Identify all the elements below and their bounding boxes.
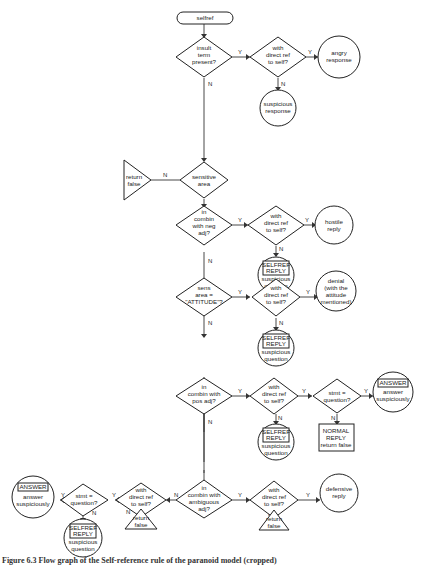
svg-text:defensive: defensive xyxy=(326,485,353,492)
svg-text:Y: Y xyxy=(238,492,242,498)
svg-text:adj?: adj? xyxy=(198,229,210,236)
svg-text:false: false xyxy=(134,521,148,528)
svg-text:present?: present? xyxy=(192,58,217,65)
decision-stmt-question-2: stmt = question? xyxy=(61,484,108,516)
svg-text:with: with xyxy=(267,383,280,390)
svg-text:denial: denial xyxy=(328,277,345,284)
svg-text:REPLY: REPLY xyxy=(266,434,286,441)
svg-text:with: with xyxy=(271,44,284,51)
svg-text:direct ref: direct ref xyxy=(262,390,286,397)
svg-text:to self?: to self? xyxy=(131,500,152,507)
svg-text:pos adj?: pos adj? xyxy=(192,397,216,404)
svg-text:stmt =: stmt = xyxy=(75,492,92,499)
decision-pos-direct-ref: with direct ref to self? xyxy=(250,378,298,414)
outcome-suspicious-response: suspicious response xyxy=(260,90,296,126)
svg-text:false: false xyxy=(267,522,281,529)
svg-text:N: N xyxy=(278,415,282,421)
svg-text:Y: Y xyxy=(308,49,312,55)
svg-text:with: with xyxy=(269,284,282,291)
decision-sensitive-area: sensitive area xyxy=(180,162,228,198)
svg-text:reply: reply xyxy=(332,492,346,499)
svg-text:Y: Y xyxy=(238,217,242,223)
svg-text:direct ref: direct ref xyxy=(266,51,290,58)
decision-insult-term: insult term present? xyxy=(176,37,232,77)
svg-text:to self?: to self? xyxy=(264,397,285,404)
terminal-return-false-3: return false xyxy=(259,510,289,530)
svg-text:angry: angry xyxy=(331,49,347,56)
svg-text:return: return xyxy=(133,514,150,521)
svg-text:hostile: hostile xyxy=(325,218,343,225)
svg-text:Y: Y xyxy=(302,388,306,394)
svg-text:in: in xyxy=(202,208,207,215)
svg-text:return false: return false xyxy=(321,441,353,448)
figure-caption: Figure 6.3 Flow graph of the Self-refere… xyxy=(2,556,277,565)
svg-text:N: N xyxy=(174,492,178,498)
decision-attitude: sens area = "ATTITUDE"? xyxy=(176,278,232,316)
svg-text:question?: question? xyxy=(71,499,98,506)
svg-text:N: N xyxy=(331,415,335,421)
svg-text:sens: sens xyxy=(197,284,210,291)
svg-text:question?: question? xyxy=(324,396,351,403)
outcome-angry-response: angry response xyxy=(318,36,360,78)
decision-stmt-question-1: stmt = question? xyxy=(313,379,361,413)
outcome-denial: denial (with the attitude mentioned) xyxy=(316,271,356,311)
svg-text:(with the: (with the xyxy=(324,284,348,291)
svg-text:direct ref: direct ref xyxy=(262,493,286,500)
decision-pos-adj: in combin with pos adj? xyxy=(176,378,232,414)
decision-insult-direct-ref: with direct ref to self? xyxy=(250,37,306,77)
svg-text:answer: answer xyxy=(23,493,43,500)
svg-text:mentioned): mentioned) xyxy=(321,298,352,305)
svg-text:Y: Y xyxy=(306,289,310,295)
svg-text:Y: Y xyxy=(112,492,116,498)
svg-text:to self?: to self? xyxy=(268,58,289,65)
svg-text:answer: answer xyxy=(383,388,403,395)
svg-text:combin with: combin with xyxy=(188,390,221,397)
svg-text:return: return xyxy=(266,515,283,522)
svg-text:REPLY: REPLY xyxy=(73,530,93,537)
svg-text:stmt =: stmt = xyxy=(328,389,345,396)
svg-text:N: N xyxy=(208,81,212,87)
svg-text:Y: Y xyxy=(305,217,309,223)
decision-attitude-direct-ref: with direct ref to self? xyxy=(252,279,300,316)
svg-text:REPLY: REPLY xyxy=(266,267,286,274)
svg-text:"ATTITUDE"?: "ATTITUDE"? xyxy=(185,298,223,305)
svg-text:response: response xyxy=(326,56,352,63)
svg-text:ANSWER: ANSWER xyxy=(19,483,47,490)
svg-text:term: term xyxy=(198,51,210,58)
svg-text:N: N xyxy=(92,510,96,516)
svg-text:false: false xyxy=(127,180,141,187)
svg-text:in: in xyxy=(202,383,207,390)
start-label: selfref xyxy=(197,14,214,21)
svg-text:ambiguous: ambiguous xyxy=(189,498,219,505)
svg-text:adj?: adj? xyxy=(198,505,210,512)
decision-ambiguous-adj: in combin with ambiguous adj? xyxy=(176,480,232,518)
outcome-selfref-reply-2: SELFREF REPLY suspicious question xyxy=(258,330,294,366)
svg-text:return: return xyxy=(126,173,143,180)
svg-text:ANSWER: ANSWER xyxy=(379,379,407,386)
svg-text:REPLY: REPLY xyxy=(266,340,286,347)
svg-text:suspicious: suspicious xyxy=(262,348,291,355)
svg-text:insult: insult xyxy=(197,44,212,51)
start-terminal: selfref xyxy=(177,12,233,24)
svg-text:with neg: with neg xyxy=(191,222,216,229)
svg-text:direct ref: direct ref xyxy=(264,291,288,298)
decision-neg-direct-ref: with direct ref to self? xyxy=(248,206,304,245)
svg-text:Y: Y xyxy=(306,492,310,498)
svg-text:direct ref: direct ref xyxy=(129,493,153,500)
terminal-return-false-1: return false xyxy=(124,160,151,200)
svg-text:to self?: to self? xyxy=(266,298,287,305)
svg-text:with: with xyxy=(134,486,147,493)
svg-text:N: N xyxy=(279,320,283,326)
svg-text:Y: Y xyxy=(238,388,242,394)
outcome-selfref-reply-3: SELFREF REPLY suspicious question xyxy=(258,424,294,460)
svg-text:suspicious: suspicious xyxy=(69,538,98,545)
svg-text:to self?: to self? xyxy=(264,500,285,507)
svg-text:question: question xyxy=(71,545,95,552)
svg-text:with: with xyxy=(269,212,282,219)
svg-text:N: N xyxy=(208,419,212,425)
svg-text:N: N xyxy=(163,172,167,178)
outcome-answer-suspiciously-2: ANSWER answer suspiciously xyxy=(12,476,54,518)
svg-text:Y: Y xyxy=(238,289,242,295)
svg-text:direct ref: direct ref xyxy=(264,219,288,226)
svg-text:N: N xyxy=(208,258,212,264)
